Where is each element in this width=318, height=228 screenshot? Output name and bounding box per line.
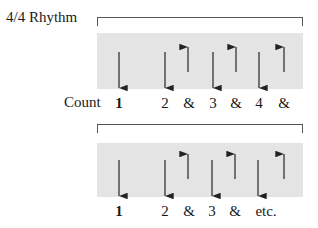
- strum-arrows: [0, 0, 318, 228]
